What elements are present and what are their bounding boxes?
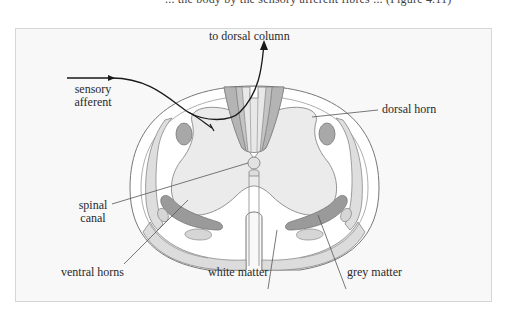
ventral-fissure-top [249,170,259,176]
label-white-matter: white matter [208,266,268,279]
left-dorsal-nucleus [176,123,192,145]
label-to-dorsal-column: to dorsal column [209,30,290,43]
label-dorsal-horn: dorsal horn [382,103,436,116]
sensory-arrowhead [108,75,115,81]
label-sensory-afferent: sensory afferent [71,83,115,109]
label-spinal-canal: spinal canal [76,199,110,225]
label-ventral-horns: ventral horns [61,266,124,279]
label-grey-matter: grey matter [347,266,402,279]
spinal-canal [248,157,260,169]
right-dorsal-nucleus [319,123,335,145]
